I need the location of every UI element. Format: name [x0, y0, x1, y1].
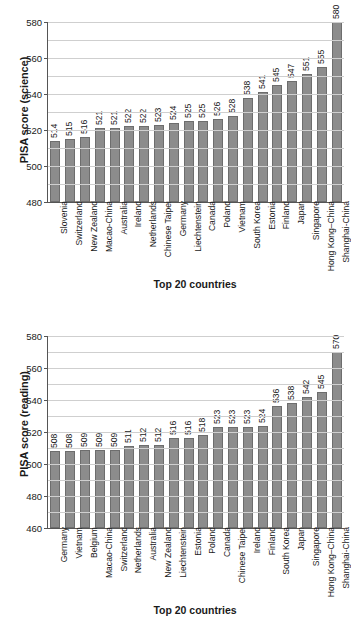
bar-value-label: 542: [301, 379, 311, 393]
pisa-charts-page: PISA score (science) 514Slovenia515Switz…: [0, 0, 351, 628]
y-axis-tick: [44, 58, 48, 59]
x-axis-category-label: Germany: [60, 527, 70, 562]
bar-value-label: 516: [168, 421, 178, 435]
y-axis-tick: [44, 336, 48, 337]
bar-value-label: 523: [153, 107, 163, 121]
gridline: [48, 480, 344, 481]
y-axis-tick: [44, 130, 48, 131]
x-axis-category-label: Chinese Taipei: [163, 201, 173, 257]
bar: 509Switzerland: [110, 450, 120, 528]
bar-value-label: 526: [212, 102, 222, 116]
bar-value-label: 541: [257, 75, 267, 89]
x-axis-category-label: Vietnam: [74, 527, 84, 558]
bar-value-label: 523: [242, 410, 252, 424]
bar: 545Hong Kong–China: [317, 392, 327, 528]
bar-value-label: 512: [153, 427, 163, 441]
x-axis-category-label: Switzerland: [74, 201, 84, 245]
x-axis-category-label: Estonia: [267, 201, 277, 230]
bar: 508Germany: [50, 451, 60, 528]
bar: 516Estonia: [184, 438, 194, 528]
bar: 512Australia: [139, 445, 149, 528]
y-axis-tick-label: 580: [26, 331, 42, 342]
bar: 538Japan: [287, 403, 297, 528]
y-axis-tick-label: 460: [26, 523, 42, 534]
gridline: [48, 112, 344, 113]
y-axis-tick-label: 560: [26, 363, 42, 374]
x-axis-category-label: Canada: [208, 201, 218, 231]
chart-science: PISA score (science) 514Slovenia515Switz…: [0, 0, 351, 314]
bar-value-label: 509: [79, 432, 89, 446]
gridline: [48, 22, 344, 23]
x-axis-category-label: Shanghai-China: [341, 201, 351, 263]
bar-value-label: 538: [286, 386, 296, 400]
bar-value-label: 512: [138, 427, 148, 441]
bar: 523Chinese Taipei: [154, 125, 164, 202]
bar-value-label: 525: [198, 104, 208, 118]
x-axis-category-label: Netherlands: [148, 201, 158, 247]
x-axis-title-science: Top 20 countries: [47, 278, 343, 290]
gridline: [48, 464, 344, 465]
gridline: [48, 94, 344, 95]
bar: 522Ireland: [124, 126, 134, 202]
x-axis-category-label: South Korea: [282, 527, 292, 575]
y-axis-tick: [44, 22, 48, 23]
bar-value-label: 525: [183, 104, 193, 118]
plot-area-science: 514Slovenia515Switzerland516New Zealand5…: [47, 22, 344, 203]
gridline: [48, 400, 344, 401]
bar-value-label: 523: [227, 410, 237, 424]
bar-value-label: 509: [109, 432, 119, 446]
y-axis-tick-label: 540: [26, 395, 42, 406]
bar-value-label: 516: [79, 120, 89, 134]
x-axis-category-label: Ireland: [134, 201, 144, 227]
x-axis-category-label: Belgium: [89, 527, 99, 558]
bar: 524Germany: [169, 123, 179, 202]
x-axis-category-label: Liechtenstein: [178, 527, 188, 578]
bar-value-label: 538: [242, 80, 252, 94]
bar-value-label: 555: [316, 50, 326, 64]
y-axis-tick: [44, 94, 48, 95]
x-axis-category-label: Singapore: [311, 201, 321, 240]
x-axis-category-label: New Zealand: [89, 201, 99, 252]
x-axis-category-label: New Zealand: [163, 527, 173, 578]
bar: 514Slovenia: [50, 141, 60, 202]
bar-value-label: 528: [227, 98, 237, 112]
gridline: [48, 368, 344, 369]
bar: 522Netherlands: [139, 126, 149, 202]
y-axis-tick-label: 580: [26, 17, 42, 28]
gridline: [48, 184, 344, 185]
gridline: [48, 352, 344, 353]
bar: 538South Korea: [243, 98, 253, 202]
x-axis-category-label: Hong Kong–China: [326, 201, 336, 271]
bar: 536South Korea: [272, 406, 282, 528]
x-axis-category-label: Macao-China: [104, 527, 114, 578]
x-axis-category-label: Shanghai-China: [341, 527, 351, 589]
x-axis-category-label: Chinese Taipei: [237, 527, 247, 583]
bar: 525Canada: [198, 121, 208, 202]
gridline: [48, 166, 344, 167]
y-axis-tick: [44, 528, 48, 529]
bar: 516Liechtenstein: [169, 438, 179, 528]
x-axis-category-label: Germany: [178, 201, 188, 236]
gridline: [48, 496, 344, 497]
x-axis-category-label: Canada: [222, 527, 232, 557]
x-axis-category-label: Australia: [148, 527, 158, 560]
plot-area-reading: 508Germany508Vietnam509Belgium509Macao-C…: [47, 336, 344, 529]
x-axis-category-label: Hong Kong–China: [326, 527, 336, 597]
bar-value-label: 518: [198, 418, 208, 432]
bar: 518Poland: [198, 435, 208, 528]
bar-value-label: 521: [94, 111, 104, 125]
bar-value-label: 508: [64, 434, 74, 448]
y-axis-tick-label: 520: [26, 125, 42, 136]
bar: 528Vietnam: [228, 116, 238, 202]
x-axis-category-label: Poland: [208, 527, 218, 554]
gridline: [48, 432, 344, 433]
y-axis-tick-label: 500: [26, 161, 42, 172]
x-axis-category-label: Switzerland: [119, 527, 129, 571]
x-axis-category-label: Slovenia: [60, 201, 70, 234]
bar-value-label: 508: [50, 434, 60, 448]
bar: 512New Zealand: [154, 445, 164, 528]
x-axis-category-label: Japan: [296, 201, 306, 224]
x-axis-category-label: Vietnam: [237, 201, 247, 232]
bar: 526Poland: [213, 119, 223, 202]
bar-value-label: 515: [64, 122, 74, 136]
